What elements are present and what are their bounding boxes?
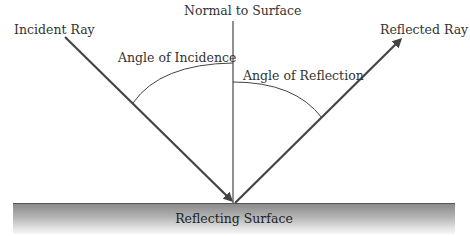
reflection-diagram: Normal to Surface Incident Ray Reflected… xyxy=(0,0,470,236)
angle-incidence-label: Angle of Incidence xyxy=(118,52,236,65)
reflected-ray-line xyxy=(235,40,400,203)
incidence-angle-arc xyxy=(133,63,233,103)
surface-label: Reflecting Surface xyxy=(13,211,455,226)
normal-label: Normal to Surface xyxy=(184,5,301,18)
reflected-ray-label: Reflected Ray xyxy=(380,24,468,37)
reflecting-surface: Reflecting Surface xyxy=(13,203,455,234)
reflection-angle-arc xyxy=(233,82,322,118)
angle-reflection-label: Angle of Reflection xyxy=(243,70,364,83)
incident-ray-label: Incident Ray xyxy=(14,24,95,37)
